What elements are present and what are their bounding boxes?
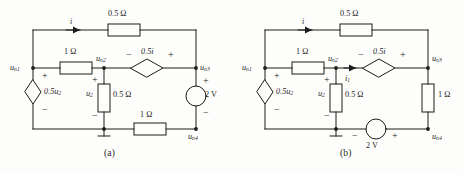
dependent-source-b-0p5u2 xyxy=(257,80,273,104)
polarity-minus-b-0p5i: − xyxy=(358,50,364,60)
node-label-b-n1: un1 xyxy=(242,64,252,73)
polarity-minus-a-0p5i: − xyxy=(126,50,132,60)
voltage-label-b-u2: u2 xyxy=(318,90,325,99)
resistor-b-right-1ohm xyxy=(422,84,434,112)
current-arrow-head-a-i xyxy=(73,27,80,34)
source-label-a-2v: 2 V xyxy=(205,91,217,99)
voltage-label-a-u2: u2 xyxy=(86,90,93,99)
polarity-minus-a-left: − xyxy=(42,105,48,115)
node-label-a-n4: un4 xyxy=(188,133,198,142)
polarity-minus-a-u2: − xyxy=(92,111,98,121)
node-dot-a-n1 xyxy=(31,66,35,70)
panel-caption-b: (b) xyxy=(340,148,352,158)
dependent-source-a-0p5i xyxy=(131,59,163,77)
resistor-b-top-0p5ohm xyxy=(340,24,372,36)
panel-caption-a: (a) xyxy=(104,148,115,158)
node-dot-a-n2 xyxy=(102,66,106,70)
polarity-plus-b-left: + xyxy=(274,71,280,81)
resistor-label-a-mid1ohm: 1 Ω xyxy=(64,48,76,56)
resistor-a-top-0p5ohm xyxy=(108,24,140,36)
polarity-plus-b-0p5i: + xyxy=(400,50,406,60)
node-label-b-n2: un2 xyxy=(328,55,338,64)
resistor-label-b-top: 0.5 Ω xyxy=(340,10,358,18)
voltage-source-a-2v xyxy=(186,86,206,106)
resistor-label-a-mid0p5ohm: 0.5 Ω xyxy=(113,91,131,99)
source-label-a-0p5i: 0.5i xyxy=(141,48,154,56)
dependent-source-a-0p5u2 xyxy=(25,80,41,104)
source-label-a-0p5u2: 0.5u2 xyxy=(44,88,61,97)
polarity-plus-a-2v: + xyxy=(203,76,209,86)
node-dot-b-n3 xyxy=(426,66,430,70)
resistor-label-b-mid1ohm: 1 Ω xyxy=(296,48,308,56)
node-label-a-n2: un2 xyxy=(96,55,106,64)
node-dot-b-n4 xyxy=(426,127,430,131)
current-label-b-i: i xyxy=(302,18,304,26)
source-label-b-2v: 2 V xyxy=(366,142,378,150)
resistor-label-b-right1ohm: 1 Ω xyxy=(438,91,450,99)
resistor-a-mid-1ohm xyxy=(60,62,92,74)
node-label-a-n3: un3 xyxy=(200,64,210,73)
polarity-plus-a-left: + xyxy=(42,71,48,81)
polarity-minus-b-left: − xyxy=(274,105,280,115)
resistor-a-mid-0p5ohm xyxy=(98,84,110,112)
polarity-plus-a-0p5i: + xyxy=(168,50,174,60)
polarity-minus-b-u2: − xyxy=(324,111,330,121)
voltage-source-b-2v xyxy=(366,119,386,139)
node-label-b-n4: un4 xyxy=(432,133,442,142)
circuit-figure: un1 un2 un3 un4 i 0.5 Ω 1 Ω 0.5 Ω 1 Ω 0.… xyxy=(0,0,463,174)
source-label-b-0p5u2: 0.5u2 xyxy=(276,88,293,97)
node-label-a-n1: un1 xyxy=(10,64,20,73)
dependent-source-b-0p5i xyxy=(363,59,395,77)
current-arrow-head-b-i xyxy=(305,27,312,34)
polarity-plus-a-u2: + xyxy=(92,75,98,85)
node-dot-b-n2 xyxy=(334,66,338,70)
node-dot-a-n4 xyxy=(194,127,198,131)
resistor-a-bottom-1ohm xyxy=(134,123,166,135)
node-dot-a-n3 xyxy=(194,66,198,70)
polarity-minus-b-2v: − xyxy=(352,131,358,141)
node-dot-b-n1 xyxy=(263,66,267,70)
polarity-plus-b-u2: + xyxy=(324,75,330,85)
resistor-label-b-mid0p5ohm: 0.5 Ω xyxy=(345,91,363,99)
polarity-plus-b-2v: + xyxy=(392,131,398,141)
resistor-label-a-bottom1ohm: 1 Ω xyxy=(140,111,152,119)
current-arrow-head-b-i1 xyxy=(349,65,356,72)
source-label-b-0p5i: 0.5i xyxy=(373,48,386,56)
resistor-b-mid-1ohm xyxy=(292,62,324,74)
current-label-a-i: i xyxy=(70,18,72,26)
resistor-label-a-top: 0.5 Ω xyxy=(108,10,126,18)
current-label-b-i1: i1 xyxy=(345,75,350,84)
polarity-minus-a-2v: − xyxy=(203,108,209,118)
resistor-b-mid-0p5ohm xyxy=(330,84,342,112)
node-label-b-n3: un3 xyxy=(432,55,442,64)
